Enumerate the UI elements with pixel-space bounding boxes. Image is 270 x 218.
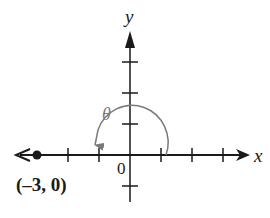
coordinate-plane: y x 0 θ (–3, 0)	[0, 0, 270, 218]
y-axis-label: y	[123, 6, 134, 27]
point-marker	[33, 151, 42, 160]
point-label: (–3, 0)	[16, 174, 67, 196]
x-axis-label: x	[253, 145, 263, 166]
x-axis	[16, 148, 250, 162]
origin-label: 0	[117, 159, 126, 178]
y-axis-up-arrow-icon	[125, 31, 135, 48]
angle-label: θ	[102, 104, 111, 124]
